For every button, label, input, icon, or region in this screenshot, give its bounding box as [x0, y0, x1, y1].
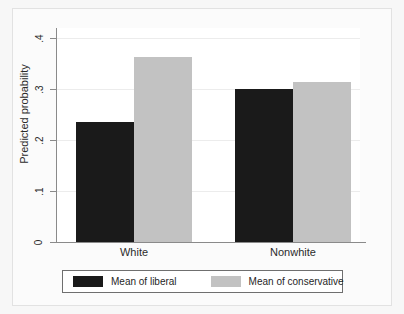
y-axis-tick — [50, 89, 56, 90]
legend-entry: Mean of conservative — [201, 276, 344, 287]
y-axis-tick-label: .2 — [30, 133, 48, 147]
y-axis-tick-label-text: .4 — [34, 34, 45, 42]
legend-label: Mean of conservative — [249, 276, 344, 287]
y-axis-tick — [50, 242, 56, 243]
y-axis-tick — [50, 191, 56, 192]
y-axis-tick-label-text: .3 — [34, 85, 45, 93]
legend-entry: Mean of liberal — [63, 276, 177, 287]
legend-label: Mean of liberal — [111, 276, 177, 287]
y-axis-tick-label: .3 — [30, 82, 48, 96]
y-axis-tick-label: .4 — [30, 31, 48, 45]
gridline — [57, 38, 360, 39]
legend-swatch — [73, 276, 103, 287]
x-axis-line — [56, 242, 366, 243]
bar — [235, 89, 293, 242]
y-axis-title: Predicted probability — [18, 44, 30, 184]
y-axis-tick-label: .1 — [30, 184, 48, 198]
y-axis-tick — [50, 38, 56, 39]
y-axis-tick-label-text: .2 — [34, 136, 45, 144]
x-axis-category-label: Nonwhite — [235, 246, 351, 258]
chart-legend: Mean of liberalMean of conservative — [62, 270, 343, 293]
bar — [293, 82, 351, 243]
x-axis-category-label: White — [76, 246, 192, 258]
y-axis-tick — [50, 140, 56, 141]
bar — [134, 57, 192, 242]
y-axis-tick-label-text: 0 — [34, 239, 45, 245]
bar — [76, 122, 134, 242]
y-axis-tick-label-text: .1 — [34, 187, 45, 195]
y-axis-tick-label: 0 — [30, 235, 48, 249]
figure: Predicted probability 0.1.2.3.4 WhiteNon… — [0, 0, 404, 314]
legend-swatch — [211, 276, 241, 287]
